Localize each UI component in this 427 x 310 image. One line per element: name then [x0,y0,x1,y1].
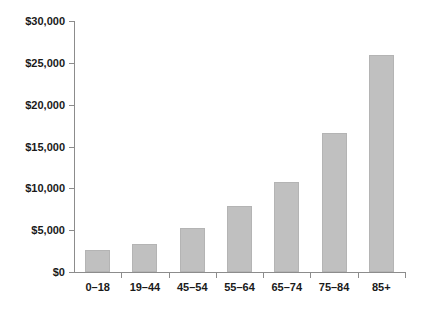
y-axis-tick-label: $0 [53,267,65,278]
x-axis-tick-label: 19–44 [121,281,168,293]
x-axis-tick [405,273,406,278]
bar-chart: $0$5,000$10,000$15,000$20,000$25,000$30,… [0,0,427,310]
y-axis-tick-label: $15,000 [25,142,65,153]
bar [274,182,299,272]
y-axis-tick-label: $10,000 [25,183,65,194]
bar [132,244,157,272]
x-axis-tick [216,273,217,278]
x-axis-tick-label: 0–18 [74,281,121,293]
y-axis-tick [69,272,74,273]
y-axis-tick-label: $20,000 [25,100,65,111]
bar [227,206,252,272]
x-axis-tick [121,273,122,278]
x-axis-tick [169,273,170,278]
x-axis-tick-label: 55–64 [216,281,263,293]
x-axis-tick-label: 65–74 [263,281,310,293]
bar [180,228,205,272]
x-axis-tick [310,273,311,278]
y-axis-tick-label: $5,000 [31,225,65,236]
y-axis-tick-label: $30,000 [25,16,65,27]
bar [85,250,110,272]
x-axis-tick-label: 45–54 [169,281,216,293]
x-axis-tick [263,273,264,278]
bar [369,55,394,272]
plot-area [74,21,405,272]
x-axis-line [74,272,406,273]
y-axis-tick-label: $25,000 [25,58,65,69]
x-axis-tick-label: 75–84 [310,281,357,293]
x-axis-tick-label: 85+ [358,281,405,293]
x-axis-tick [358,273,359,278]
bar [322,133,347,272]
